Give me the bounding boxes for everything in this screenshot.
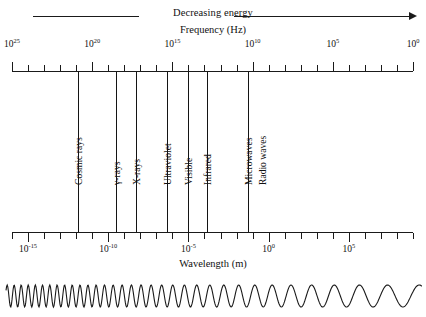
frequency-minor-tick <box>285 65 286 71</box>
wavelength-major-tick <box>28 233 29 242</box>
energy-rule-right <box>234 16 412 17</box>
tick-mantissa: 10 <box>164 39 174 49</box>
tick-mantissa: 10 <box>19 244 29 254</box>
frequency-minor-tick <box>237 65 238 71</box>
frequency-tick-label: 1015 <box>164 40 180 50</box>
wavelength-minor-tick <box>397 233 398 239</box>
wavelength-minor-tick <box>44 233 45 239</box>
frequency-minor-tick <box>381 65 382 71</box>
tick-exponent: 0 <box>272 242 275 249</box>
band-name-cosmic-rays: Cosmic rays <box>74 137 84 185</box>
wavelength-minor-tick <box>333 233 334 239</box>
frequency-major-tick <box>12 62 13 71</box>
frequency-major-tick <box>172 62 173 71</box>
frequency-tick-label: 1020 <box>84 40 100 50</box>
band-divider-line <box>207 72 208 232</box>
frequency-major-tick <box>333 62 334 71</box>
wavelength-minor-tick <box>413 233 414 239</box>
frequency-minor-tick <box>44 65 45 71</box>
wavelength-tick-label: 10-5 <box>181 245 196 255</box>
tick-mantissa: 10 <box>262 244 272 254</box>
tick-exponent: 5 <box>336 37 339 44</box>
tick-exponent: 10 <box>254 37 260 44</box>
frequency-minor-tick <box>156 65 157 71</box>
wavelength-tick-label: 105 <box>342 245 355 255</box>
tick-exponent: -10 <box>109 242 118 249</box>
wavelength-minor-tick <box>204 233 205 239</box>
frequency-major-tick <box>413 62 414 71</box>
frequency-minor-tick <box>301 65 302 71</box>
wavelength-axis-title: Wavelength (m) <box>0 258 426 269</box>
wavelength-sine-wave <box>0 276 426 317</box>
wavelength-tick-label: 10-15 <box>19 245 37 255</box>
tick-mantissa: 10 <box>326 39 336 49</box>
tick-exponent: 25 <box>14 37 20 44</box>
tick-exponent: -5 <box>191 242 196 249</box>
wavelength-tick-label: 100 <box>262 245 275 255</box>
tick-exponent: 20 <box>94 37 100 44</box>
band-divider-line <box>188 72 189 232</box>
frequency-minor-tick <box>204 65 205 71</box>
tick-mantissa: 10 <box>342 244 352 254</box>
band-name-radio-waves: Radio waves <box>258 136 268 185</box>
frequency-axis-title: Frequency (Hz) <box>0 24 426 35</box>
wavelength-minor-tick <box>172 233 173 239</box>
wavelength-minor-tick <box>301 233 302 239</box>
frequency-tick-label: 100 <box>407 40 420 50</box>
frequency-minor-tick <box>28 65 29 71</box>
wavelength-minor-tick <box>221 233 222 239</box>
tick-mantissa: 10 <box>181 244 191 254</box>
wavelength-major-tick <box>108 233 109 242</box>
decreasing-energy-row: Decreasing energy <box>0 6 426 26</box>
frequency-minor-tick <box>221 65 222 71</box>
tick-exponent: 15 <box>174 37 180 44</box>
wavelength-minor-tick <box>253 233 254 239</box>
tick-mantissa: 10 <box>245 39 255 49</box>
tick-mantissa: 10 <box>99 244 109 254</box>
frequency-major-tick <box>92 62 93 71</box>
band-name-ultraviolet: Ultraviolet <box>163 143 173 185</box>
frequency-major-tick <box>253 62 254 71</box>
wavelength-axis-line <box>12 232 413 233</box>
tick-mantissa: 10 <box>407 39 417 49</box>
wavelength-major-tick <box>349 233 350 242</box>
frequency-minor-tick <box>188 65 189 71</box>
frequency-minor-tick <box>124 65 125 71</box>
frequency-minor-tick <box>76 65 77 71</box>
tick-mantissa: 10 <box>4 39 14 49</box>
wavelength-minor-tick <box>92 233 93 239</box>
wavelength-minor-tick <box>156 233 157 239</box>
wavelength-minor-tick <box>124 233 125 239</box>
band-name-visible: Visible <box>184 158 194 185</box>
wavelength-minor-tick <box>365 233 366 239</box>
band-divider-line <box>116 72 117 232</box>
wavelength-minor-tick <box>381 233 382 239</box>
wavelength-minor-tick <box>317 233 318 239</box>
frequency-tick-label: 1010 <box>245 40 261 50</box>
tick-mantissa: 10 <box>84 39 94 49</box>
frequency-minor-tick <box>317 65 318 71</box>
frequency-minor-tick <box>365 65 366 71</box>
wavelength-major-tick <box>269 233 270 242</box>
frequency-tick-label: 105 <box>326 40 339 50</box>
band-name-microwaves: Microwaves <box>244 138 254 185</box>
wavelength-minor-tick <box>76 233 77 239</box>
tick-exponent: 5 <box>352 242 355 249</box>
wavelength-minor-tick <box>12 233 13 239</box>
em-spectrum-figure: Decreasing energy Frequency (Hz) 1025102… <box>0 0 426 317</box>
frequency-minor-tick <box>140 65 141 71</box>
tick-exponent: 0 <box>416 37 419 44</box>
frequency-minor-tick <box>60 65 61 71</box>
wavelength-minor-tick <box>60 233 61 239</box>
frequency-axis-line <box>12 71 413 72</box>
frequency-minor-tick <box>349 65 350 71</box>
right-arrow-icon <box>409 12 417 20</box>
frequency-tick-label: 1025 <box>4 40 20 50</box>
band-name-rays: γ-rays <box>112 162 122 185</box>
wavelength-major-tick <box>188 233 189 242</box>
band-name-x-rays: X-rays <box>132 159 142 185</box>
wavelength-minor-tick <box>140 233 141 239</box>
band-divider-line <box>136 72 137 232</box>
wavelength-minor-tick <box>237 233 238 239</box>
band-name-infrared: Infrared <box>203 154 213 185</box>
